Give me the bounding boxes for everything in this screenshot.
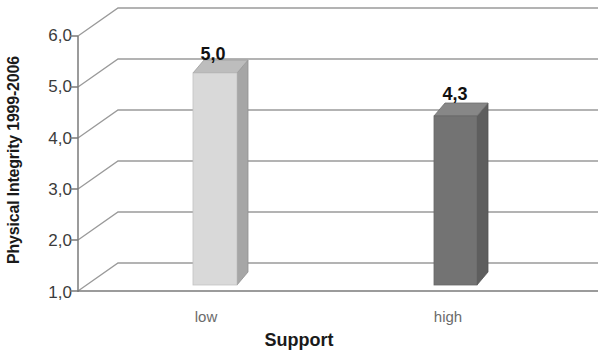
category-label-high: high	[434, 308, 462, 325]
bar-high-side-face	[477, 103, 488, 285]
bar-high-front-face	[434, 116, 477, 285]
category-label-low: low	[195, 308, 218, 325]
gridline-4	[78, 110, 598, 138]
bar-low[interactable]	[193, 60, 248, 285]
bar-high[interactable]	[434, 103, 488, 285]
plot-area	[0, 0, 598, 355]
gridline-5	[78, 59, 598, 87]
gridlines	[78, 8, 598, 291]
gridline-2	[78, 212, 598, 240]
bar-low-front-face	[193, 73, 237, 285]
y-axis	[70, 36, 78, 292]
gridline-1	[78, 263, 598, 291]
value-label-high: 4,3	[442, 84, 467, 105]
value-label-low: 5,0	[200, 44, 225, 65]
gridline-6	[78, 8, 598, 36]
bar-chart: Physical Integrity 1999-2006 6,0 5,0 4,0…	[0, 0, 598, 355]
gridline-3	[78, 161, 598, 189]
bar-low-side-face	[237, 60, 248, 285]
x-axis-title: Support	[0, 330, 598, 351]
